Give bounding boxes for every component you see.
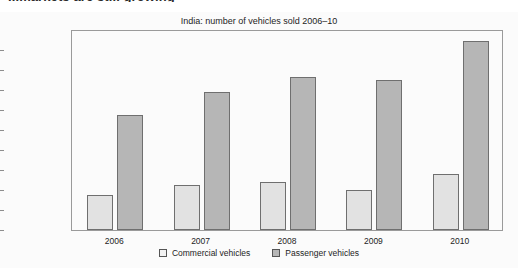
x-axis-tick-label: 2008 <box>257 236 317 246</box>
bar-group <box>433 30 489 230</box>
chart-figure: India: number of vehicles sold 2006–10 2… <box>0 12 518 268</box>
legend-swatch-icon <box>272 249 280 257</box>
bar-passenger-2009[interactable] <box>376 80 402 230</box>
bar-commercial-2007[interactable] <box>174 185 200 230</box>
legend-item-label: Commercial vehicles <box>172 248 250 258</box>
bar-commercial-2009[interactable] <box>346 190 372 230</box>
y-axis-tick-mark <box>0 170 4 171</box>
legend-item-commercial[interactable]: Commercial vehicles <box>159 248 250 258</box>
legend-item-label: Passenger vehicles <box>285 248 359 258</box>
y-axis-tick-mark <box>0 90 4 91</box>
x-axis-tick-label: 2010 <box>430 236 490 246</box>
y-axis-tick-mark <box>0 190 4 191</box>
y-axis: 2 000 0001 800 0001 600 0001 400 0001 20… <box>0 12 71 250</box>
y-axis-tick-mark <box>0 150 4 151</box>
bar-group <box>260 30 316 230</box>
y-axis-tick-mark <box>0 50 4 51</box>
bar-group <box>346 30 402 230</box>
legend-swatch-icon <box>159 249 167 257</box>
x-axis-tick-label: 2006 <box>84 236 144 246</box>
x-axis-tick-label: 2007 <box>171 236 231 246</box>
y-axis-tick-mark <box>0 230 4 231</box>
y-axis-tick-mark <box>0 110 4 111</box>
bar-group <box>174 30 230 230</box>
bar-commercial-2008[interactable] <box>260 182 286 230</box>
bar-passenger-2008[interactable] <box>290 77 316 230</box>
bar-group <box>87 30 143 230</box>
bar-commercial-2006[interactable] <box>87 195 113 230</box>
chart-title: India: number of vehicles sold 2006–10 <box>0 16 518 26</box>
y-axis-tick-mark <box>0 210 4 211</box>
article-heading: ...markets are still growing <box>8 0 175 2</box>
plot-area <box>71 30 503 231</box>
legend-item-passenger[interactable]: Passenger vehicles <box>272 248 359 258</box>
bar-commercial-2010[interactable] <box>433 174 459 230</box>
x-axis-tick-label: 2009 <box>343 236 403 246</box>
bar-passenger-2010[interactable] <box>463 41 489 230</box>
y-axis-tick-mark <box>0 130 4 131</box>
chart-legend: Commercial vehiclesPassenger vehicles <box>0 248 518 258</box>
bar-passenger-2007[interactable] <box>204 92 230 230</box>
bar-passenger-2006[interactable] <box>117 115 143 230</box>
y-axis-tick-mark <box>0 70 4 71</box>
